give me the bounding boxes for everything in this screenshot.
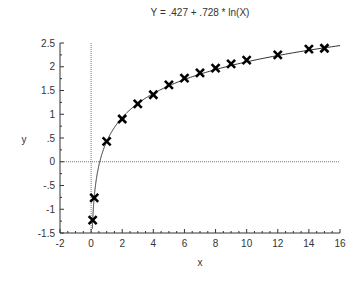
y-tick-label: -.5	[43, 180, 55, 191]
data-point-marker	[227, 60, 235, 68]
x-tick-label: 6	[182, 238, 188, 249]
x-tick-label: -2	[56, 238, 65, 249]
x-tick-label: 0	[88, 238, 94, 249]
fit-curve	[92, 46, 340, 229]
x-axis-label: x	[198, 257, 203, 268]
data-point-marker	[103, 137, 111, 145]
chart: Y = .427 + .728 * ln(X) y x -20246810121…	[0, 0, 361, 286]
x-tick-label: 12	[272, 238, 284, 249]
data-point-marker	[305, 45, 313, 53]
y-tick-label: 2.5	[41, 38, 55, 49]
data-point-marker	[243, 56, 251, 64]
y-axis-label: y	[22, 134, 27, 145]
y-tick-label: -1	[46, 204, 55, 215]
y-tick-label: 1.5	[41, 85, 55, 96]
x-tick-label: 2	[119, 238, 125, 249]
y-tick-label: 0	[49, 156, 55, 167]
x-tick-label: 10	[241, 238, 253, 249]
x-tick-label: 4	[151, 238, 157, 249]
y-tick-label: 1	[49, 109, 55, 120]
y-tick-label: 2	[49, 61, 55, 72]
y-tick-label: .5	[47, 133, 56, 144]
x-tick-label: 16	[334, 238, 346, 249]
x-tick-label: 8	[213, 238, 219, 249]
data-point-marker	[134, 100, 142, 108]
chart-title: Y = .427 + .728 * ln(X)	[151, 7, 250, 18]
y-tick-label: -1.5	[38, 228, 56, 239]
x-tick-label: 14	[303, 238, 315, 249]
data-point-marker	[118, 115, 126, 123]
tick-labels: -20246810121416-1.5-1-.50.511.522.5	[38, 38, 346, 250]
data-point-marker	[212, 64, 220, 72]
